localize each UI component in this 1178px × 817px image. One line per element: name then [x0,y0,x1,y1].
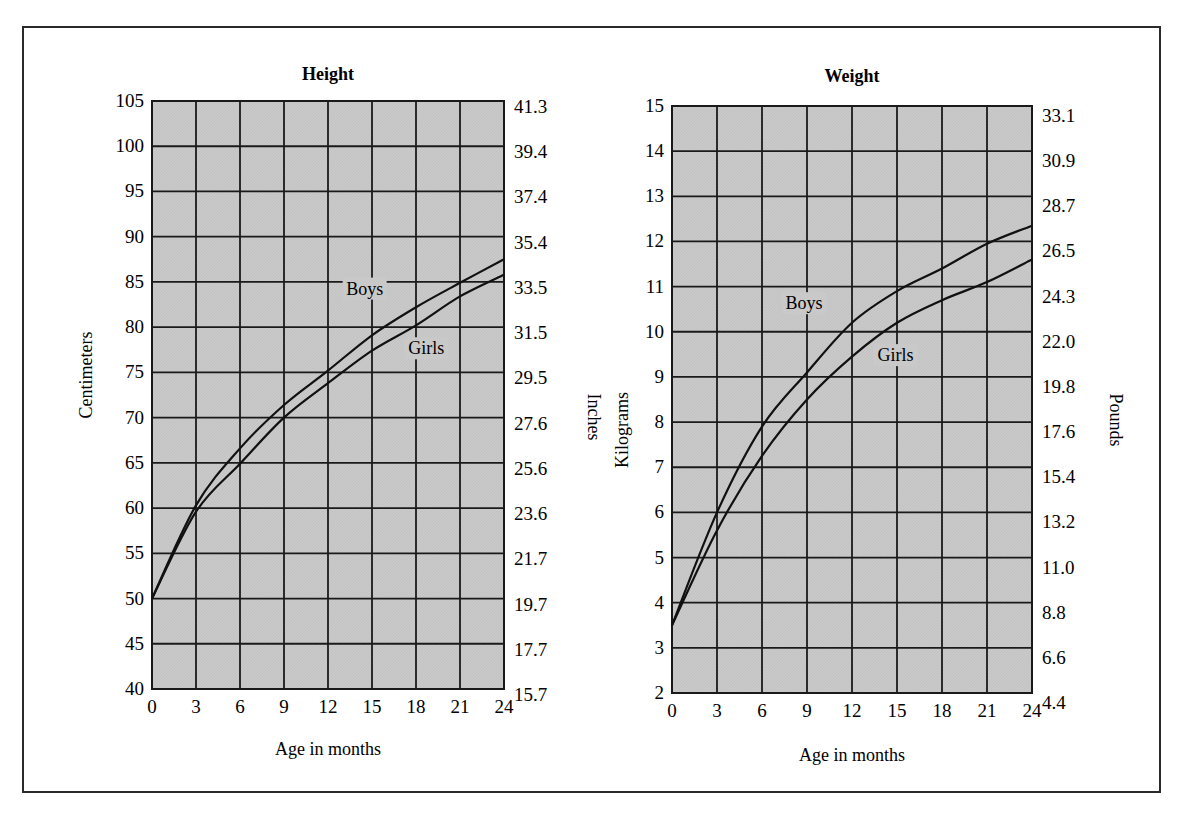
x-tick-label: 21 [451,696,470,717]
curve-label-girls: Girls [408,338,444,358]
y-tick-label: 95 [125,180,144,201]
y-right-tick-label: 35.4 [514,232,548,253]
y-right-tick-label: 33.1 [1042,105,1075,126]
y-tick-label: 100 [116,135,145,156]
x-tick-label: 9 [279,696,289,717]
y-tick-label: 65 [125,452,144,473]
y-right-tick-label: 4.4 [1042,692,1066,713]
y-right-tick-label: 23.6 [514,503,547,524]
y-right-tick-label: 26.5 [1042,240,1075,261]
y-right-tick-label: 24.3 [1042,286,1075,307]
y-tick-label: 75 [125,361,144,382]
x-tick-label: 3 [712,700,722,721]
y-tick-label: 8 [655,411,665,432]
y-tick-label: 40 [125,678,144,699]
y-right-tick-label: 8.8 [1042,602,1066,623]
y-right-tick-label: 17.7 [514,639,547,660]
y-axis-label: Kilograms [612,392,632,468]
y-tick-label: 70 [125,407,144,428]
y-tick-label: 4 [655,592,665,613]
x-tick-label: 24 [1023,700,1043,721]
x-tick-label: 0 [147,696,157,717]
x-tick-label: 15 [888,700,907,721]
y-right-tick-label: 39.4 [514,141,548,162]
x-axis-label: Age in months [275,739,381,759]
x-tick-label: 24 [495,696,515,717]
y-tick-label: 14 [645,140,665,161]
y-right-tick-label: 30.9 [1042,150,1075,171]
y-tick-label: 11 [646,276,664,297]
y-right-tick-label: 27.6 [514,413,547,434]
x-tick-label: 0 [667,700,677,721]
y-right-tick-label: 22.0 [1042,331,1075,352]
height-chart: 036912151821244015.74517.75019.75521.760… [76,64,604,759]
x-tick-label: 9 [802,700,812,721]
y-right-tick-label: 31.5 [514,322,547,343]
y-right-tick-label: 11.0 [1042,557,1075,578]
y-tick-label: 90 [125,226,144,247]
y-tick-label: 6 [655,501,665,522]
y-tick-label: 7 [655,456,665,477]
x-tick-label: 6 [757,700,767,721]
y-tick-label: 50 [125,588,144,609]
x-tick-label: 18 [407,696,426,717]
y-right-tick-label: 41.3 [514,96,547,117]
x-axis-label: Age in months [799,745,905,765]
y-right-axis-label: Pounds [1106,393,1126,446]
chart-title: Weight [824,66,879,86]
y-tick-label: 3 [655,637,665,658]
y-right-tick-label: 15.4 [1042,466,1076,487]
x-tick-label: 15 [363,696,382,717]
curve-label-boys: Boys [785,293,822,313]
y-tick-label: 105 [116,90,145,111]
y-right-tick-label: 6.6 [1042,647,1066,668]
y-right-tick-label: 19.8 [1042,376,1075,397]
weight-chart: 0369121518212424.436.648.8511.0613.2715.… [612,66,1126,765]
x-tick-label: 3 [191,696,201,717]
y-tick-label: 15 [645,95,664,116]
y-tick-label: 9 [655,366,665,387]
y-right-tick-label: 25.6 [514,458,547,479]
y-right-tick-label: 28.7 [1042,195,1075,216]
x-tick-label: 21 [978,700,997,721]
y-tick-label: 12 [645,230,664,251]
y-tick-label: 85 [125,271,144,292]
x-tick-label: 12 [843,700,862,721]
y-tick-label: 5 [655,547,665,568]
y-tick-label: 80 [125,316,144,337]
y-tick-label: 45 [125,633,144,654]
y-tick-label: 60 [125,497,144,518]
y-right-tick-label: 37.4 [514,186,548,207]
y-right-tick-label: 13.2 [1042,511,1075,532]
y-tick-label: 13 [645,185,664,206]
y-right-tick-label: 17.6 [1042,421,1075,442]
y-tick-label: 55 [125,542,144,563]
y-tick-label: 10 [645,321,664,342]
y-right-tick-label: 33.5 [514,277,547,298]
y-right-axis-label: Inches [584,394,604,441]
y-right-tick-label: 21.7 [514,548,547,569]
y-right-tick-label: 15.7 [514,684,547,705]
y-right-tick-label: 19.7 [514,594,547,615]
x-tick-label: 12 [319,696,338,717]
y-tick-label: 2 [655,682,665,703]
y-right-tick-label: 29.5 [514,367,547,388]
curve-label-boys: Boys [346,279,383,299]
x-tick-label: 18 [933,700,952,721]
x-tick-label: 6 [235,696,245,717]
chart-title: Height [302,64,354,84]
curve-label-girls: Girls [878,345,914,365]
growth-charts: 036912151821244015.74517.75019.75521.760… [0,0,1178,817]
y-axis-label: Centimeters [76,332,96,419]
